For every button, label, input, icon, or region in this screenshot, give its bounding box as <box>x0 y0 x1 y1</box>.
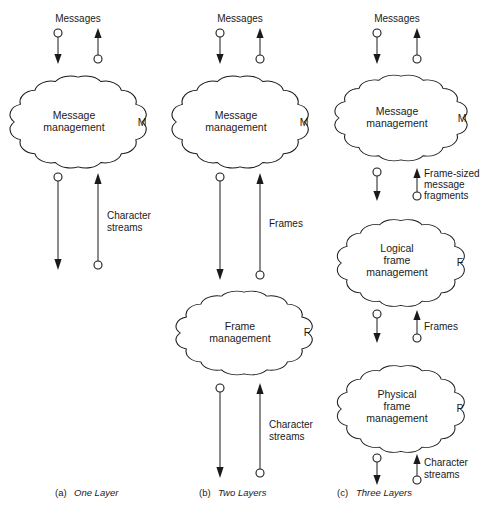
cloud-tag-m-b: M <box>300 116 309 128</box>
layered-communication-diagram: Messages Message management M <box>0 0 487 519</box>
flow-label-frames-b: Frames <box>269 218 303 229</box>
arrow-character-up-c <box>413 454 421 484</box>
cloud-tag-f-c: F <box>457 256 463 268</box>
caption-tag-c: (c) <box>337 487 348 498</box>
arrow-fragments-up-c <box>413 168 421 200</box>
arrow-messages-down-c <box>373 29 381 64</box>
panel-two-layers: Messages Message management M <box>172 13 314 498</box>
arrow-messages-down-b <box>216 29 224 64</box>
flow-label-frame-sized-c: Frame-sized <box>424 168 480 179</box>
cloud-label-management-b: management <box>205 121 266 133</box>
arrow-character-down-b <box>216 384 224 478</box>
cloud-label-message-c: Message <box>376 105 419 117</box>
caption-text-c: Three Layers <box>356 487 412 498</box>
arrow-frames-down-c <box>373 310 381 343</box>
flow-label-message-c: message <box>424 179 465 190</box>
cloud-label-message-a: Message <box>53 109 96 121</box>
arrow-character-down-a <box>54 173 62 270</box>
flow-label-frames-c: Frames <box>424 321 458 332</box>
flow-label-messages-b: Messages <box>217 13 263 24</box>
flow-label-character-a: Character <box>107 210 152 221</box>
arrow-character-up-b <box>256 383 264 477</box>
arrow-messages-up-b <box>256 28 264 63</box>
figure-canvas: Messages Message management M <box>0 0 487 519</box>
caption-tag-b: (b) <box>199 487 211 498</box>
cloud-label-logical-management-c: management <box>366 266 427 278</box>
cloud-label-logical-c: Logical <box>380 242 413 254</box>
arrow-messages-down-a <box>54 29 62 64</box>
arrow-messages-up-a <box>94 28 102 63</box>
arrow-frames-up-c <box>413 310 421 342</box>
arrow-fragments-down-c <box>373 168 381 201</box>
panel-one-layer: Messages Message management M <box>10 13 152 498</box>
flow-label-streams-c: streams <box>424 469 460 480</box>
cloud-label-logical-frame-c: frame <box>384 254 411 266</box>
cloud-label-physical-c: Physical <box>377 388 416 400</box>
flow-label-fragments-c: fragments <box>424 190 468 201</box>
cloud-label-physical-management-c: management <box>366 412 427 424</box>
arrow-character-down-c <box>373 454 381 485</box>
flow-label-character-b: Character <box>269 419 314 430</box>
cloud-label-physical-frame-c: frame <box>384 400 411 412</box>
cloud-label-message-b: Message <box>215 109 258 121</box>
cloud-tag-m-a: M <box>138 116 147 128</box>
flow-label-character-c: Character <box>424 457 469 468</box>
caption-tag-a: (a) <box>55 487 67 498</box>
arrow-messages-up-c <box>413 28 421 63</box>
cloud-label-management-a: management <box>43 121 104 133</box>
caption-text-b: Two Layers <box>218 487 267 498</box>
cloud-tag-m-c: M <box>458 112 467 124</box>
cloud-tag-f-b: F <box>304 326 310 338</box>
cloud-tag-p-c: P <box>456 402 463 414</box>
cloud-label-management-c: management <box>366 117 427 129</box>
arrow-character-up-a <box>94 173 102 269</box>
panel-three-layers: Messages Message management M <box>335 13 480 498</box>
flow-label-streams-a: streams <box>107 222 143 233</box>
arrow-frames-up-b <box>256 173 264 279</box>
cloud-label-frame-b: Frame <box>225 320 255 332</box>
flow-label-messages-c: Messages <box>374 13 420 24</box>
arrow-frames-down-b <box>216 173 224 280</box>
flow-label-messages-a: Messages <box>55 13 101 24</box>
cloud-label-frame-management-b: management <box>209 332 270 344</box>
caption-text-a: One Layer <box>74 487 119 498</box>
flow-label-streams-b: streams <box>269 431 305 442</box>
